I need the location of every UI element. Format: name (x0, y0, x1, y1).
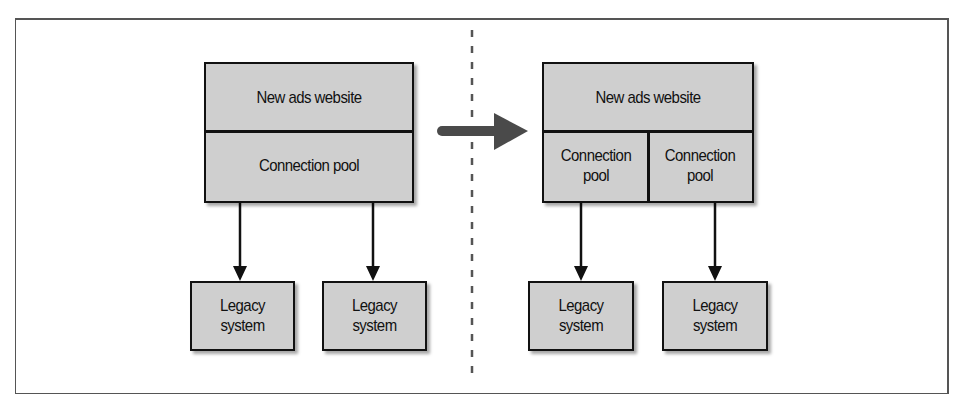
left-legacy-system-1: Legacy system (190, 281, 295, 351)
left-website-box: New ads website Connection pool (204, 62, 414, 203)
left-legacy-system-2: Legacy system (322, 281, 427, 351)
right-connector-2 (708, 202, 722, 281)
right-pool-2: Connection pool (655, 132, 745, 200)
legacy-label-line2: system (693, 316, 737, 336)
right-connector-1 (574, 202, 588, 281)
right-legacy-system-2: Legacy system (662, 281, 768, 351)
right-website-label: New ads website (556, 64, 739, 131)
legacy-label-line1: Legacy (558, 296, 603, 316)
left-connector-1 (233, 202, 247, 281)
right-pool-1: Connection pool (550, 132, 642, 200)
right-website-box: New ads website Connection pool Connecti… (542, 62, 754, 203)
transition-arrow-icon (442, 113, 528, 150)
left-pool-label: Connection pool (218, 132, 399, 200)
legacy-label-line1: Legacy (692, 296, 737, 316)
pool-label-line2: pool (583, 166, 609, 186)
legacy-label-line1: Legacy (220, 296, 265, 316)
legacy-label-line1: Legacy (352, 296, 397, 316)
pool-label-line2: pool (687, 166, 713, 186)
legacy-label-line2: system (220, 316, 264, 336)
connectors-layer (0, 0, 965, 408)
right-pool-separator (647, 131, 650, 203)
left-connector-2 (366, 202, 380, 281)
right-legacy-system-1: Legacy system (528, 281, 634, 351)
legacy-label-line2: system (352, 316, 396, 336)
pool-label-line1: Connection (561, 146, 631, 166)
pool-label-line1: Connection (665, 146, 735, 166)
left-website-label: New ads website (218, 64, 399, 131)
legacy-label-line2: system (559, 316, 603, 336)
